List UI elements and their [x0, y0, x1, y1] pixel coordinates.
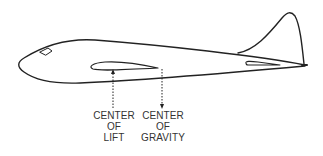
label-line: OF [133, 121, 193, 132]
wing [91, 62, 158, 70]
center-of-gravity-arrow [160, 69, 164, 109]
fuselage [19, 40, 305, 83]
center-of-lift-arrow [111, 69, 115, 108]
label-line: CENTER [133, 110, 193, 121]
label-line: GRAVITY [133, 132, 193, 143]
horizontal-stabilizer [246, 61, 280, 65]
center-of-gravity-label: CENTER OF GRAVITY [133, 110, 193, 143]
arrowhead-down-icon [160, 104, 164, 109]
